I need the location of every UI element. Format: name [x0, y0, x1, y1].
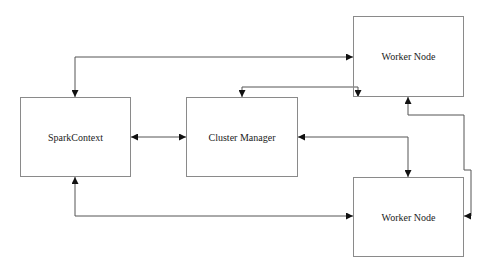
edge-clustermanager-worker-top: [242, 87, 358, 97]
cluster-manager-node: [186, 97, 298, 177]
spark-context-node: [20, 97, 131, 177]
worker-node-bottom: [353, 177, 464, 257]
edge-sparkcontext-worker-bottom: [75, 177, 353, 216]
edge-clustermanager-worker-bottom: [298, 137, 408, 177]
edge-sparkcontext-worker-top: [75, 57, 353, 97]
worker-node-top: [353, 16, 464, 97]
